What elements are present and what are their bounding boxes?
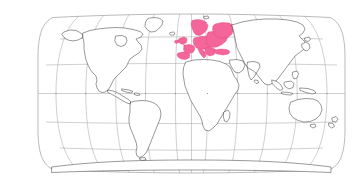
tick-dot-equator	[55, 93, 56, 94]
tick-dot-equator	[115, 93, 116, 94]
iceland-coastline	[170, 32, 176, 35]
tick-dot-equator	[237, 93, 238, 94]
tick-dot-equator	[85, 93, 86, 94]
tick-dot-equator	[297, 93, 298, 94]
world-map-figure	[0, 0, 364, 189]
highlight-france[interactable]	[184, 45, 196, 54]
tick-dot-equator	[326, 93, 327, 94]
tick-dot-equator	[267, 93, 268, 94]
tick-dot-equator	[175, 93, 176, 94]
highlight-ireland[interactable]	[175, 40, 180, 44]
tick-dot-equator	[207, 93, 208, 94]
world-map-svg[interactable]	[0, 0, 364, 189]
tick-dot-equator	[145, 93, 146, 94]
